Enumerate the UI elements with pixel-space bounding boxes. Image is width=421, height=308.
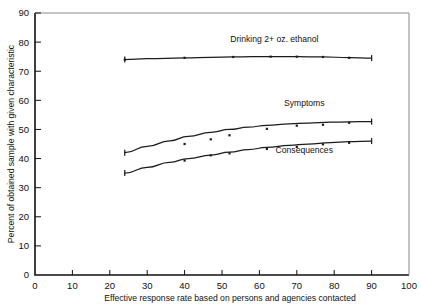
series-data-point (184, 159, 186, 161)
series-data-point (348, 57, 350, 59)
x-tick-label: 100 (401, 280, 417, 291)
series-data-point (210, 138, 212, 140)
series-data-point (296, 125, 298, 127)
x-tick-label: 90 (366, 280, 377, 291)
x-tick-label: 40 (179, 280, 190, 291)
series-data-point (232, 56, 234, 58)
series-data-point (322, 56, 324, 58)
x-axis-ticks: 0102030405060708090100 (32, 270, 417, 291)
y-tick-label: 30 (18, 182, 29, 193)
series-data-point (228, 152, 230, 154)
x-axis-title: Effective response rate based on persons… (104, 293, 356, 303)
chart-svg: 0102030405060708090100 01020304050607080… (0, 0, 421, 308)
series-data-point (270, 56, 272, 58)
y-axis-title: Percent of obtained sample with given ch… (6, 44, 16, 243)
x-tick-label: 30 (142, 280, 153, 291)
y-tick-label: 60 (18, 95, 29, 106)
series-label-1: Drinking 2+ oz. ethanol (230, 34, 318, 44)
y-tick-label: 70 (18, 66, 29, 77)
y-tick-label: 20 (18, 211, 29, 222)
x-tick-label: 70 (292, 280, 303, 291)
series-data-point (124, 58, 126, 60)
series-line-3 (125, 141, 372, 173)
y-tick-label: 10 (18, 240, 29, 251)
series-data-point (348, 122, 350, 124)
axis-spines (35, 13, 409, 275)
y-tick-label: 50 (18, 124, 29, 135)
series-group (124, 55, 372, 176)
y-tick-label: 80 (18, 37, 29, 48)
series-label-2: Symptoms (284, 98, 325, 108)
y-tick-label: 90 (18, 7, 29, 18)
series-line-2 (125, 122, 372, 153)
x-tick-label: 10 (67, 280, 78, 291)
x-tick-label: 80 (329, 280, 340, 291)
series-data-point (184, 143, 186, 145)
y-tick-label: 40 (18, 153, 29, 164)
series-data-point (296, 56, 298, 58)
x-tick-label: 20 (105, 280, 116, 291)
series-data-point (266, 128, 268, 130)
series-labels-group: Drinking 2+ oz. ethanolSymptomsConsequen… (230, 34, 333, 155)
series-label-3: Consequences (276, 145, 333, 155)
series-data-point (348, 142, 350, 144)
y-tick-label: 0 (24, 269, 29, 280)
x-tick-label: 60 (254, 280, 265, 291)
series-data-point (210, 154, 212, 156)
axis-group (35, 13, 409, 275)
y-axis-ticks: 0102030405060708090 (18, 7, 41, 280)
series-data-point (228, 134, 230, 136)
series-data-point (322, 124, 324, 126)
chart-figure: 0102030405060708090100 01020304050607080… (0, 0, 421, 308)
series-line-1 (125, 57, 372, 60)
series-data-point (184, 57, 186, 59)
x-tick-label: 50 (217, 280, 228, 291)
x-tick-label: 0 (32, 280, 37, 291)
series-data-point (266, 148, 268, 150)
